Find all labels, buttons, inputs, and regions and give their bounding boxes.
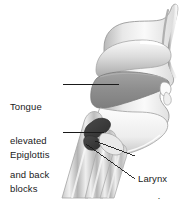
- label-epiglottis-line2: blocks: [10, 183, 50, 194]
- label-tongue-line1: Tongue: [10, 101, 49, 112]
- swallowing-anatomy-figure: Tongue elevated and back Epiglottis bloc…: [0, 0, 195, 199]
- label-epiglottis: Epiglottis blocks larynx: [10, 127, 50, 199]
- lower-lip: [164, 92, 172, 105]
- label-food: Food: [138, 174, 160, 199]
- label-epiglottis-line1: Epiglottis: [10, 149, 50, 160]
- label-food-line1: Food: [138, 196, 160, 199]
